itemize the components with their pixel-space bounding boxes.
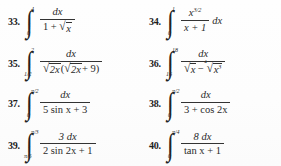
numerator-exponent: 3/2 <box>193 6 201 13</box>
numerator: dx <box>195 48 211 61</box>
integral-sign-36: 18 ∫ 16 <box>163 47 180 77</box>
numerator-text: dx <box>198 48 208 59</box>
fraction-38: dx 3 + cos 2x <box>181 89 231 116</box>
lower-limit: 0 <box>27 30 30 36</box>
lower-limit: 0 <box>168 112 171 118</box>
radical-icon: √ <box>59 20 65 35</box>
denominator-prefix: 1 + <box>43 21 57 32</box>
lower-limit: 0 <box>168 153 171 159</box>
problem-number: 40. <box>149 138 161 151</box>
lower-limit: 0 <box>168 30 171 36</box>
integral-sign-39: π/3 ∫ π/6 <box>22 129 39 159</box>
radical-icon: √ <box>64 62 70 77</box>
integral-sign-33: 4 ∫ 0 <box>22 6 39 36</box>
integral-sign-37: π/2 ∫ 0 <box>22 88 39 118</box>
radical-icon: √ <box>207 62 213 77</box>
problem-number: 35. <box>8 56 20 69</box>
denominator: 1 + √ x <box>40 20 75 35</box>
numerator-text: dx <box>201 89 211 100</box>
numerator-text: 8 dx <box>194 131 212 142</box>
numerator-text: dx <box>60 89 70 100</box>
problem-number: 33. <box>8 14 20 27</box>
square-root-outer: √ 2x <box>43 63 61 77</box>
fraction-39: 3 dx 2 sin 2x + 1 <box>40 131 96 158</box>
denominator: x + 1 <box>181 21 209 34</box>
problem-number: 37. <box>8 96 20 109</box>
denominator: 2 sin 2x + 1 <box>40 144 96 157</box>
radicand: x3 <box>213 63 222 76</box>
fraction-35: dx √ 2x ( √ 2x + 9) <box>40 48 102 76</box>
fourth-root: 4 √ x3 <box>205 63 222 77</box>
integral-sign-38: π/2 ∫ 0 <box>163 88 180 118</box>
problem-35: 35. 2 ∫ 1/2 dx √ 2x ( √ 2x + 9) <box>0 41 141 83</box>
integral-sign-35: 2 ∫ 1/2 <box>22 47 39 77</box>
lower-limit: 16 <box>166 71 172 77</box>
problem-34: 34. 1 ∫ 0 x3/2 x + 1 dx <box>141 0 281 41</box>
problem-number: 38. <box>149 96 161 109</box>
denominator-text: x + 1 <box>184 22 206 33</box>
problem-number: 36. <box>149 56 161 69</box>
fraction-33: dx 1 + √ x <box>40 6 75 34</box>
radicand: 2x <box>70 63 81 76</box>
numerator: x3/2 <box>186 7 205 20</box>
square-root: √ x <box>59 21 71 35</box>
radical-icon: √ <box>43 62 49 77</box>
radicand: 2x <box>49 63 60 76</box>
lower-limit: 1/2 <box>24 71 32 77</box>
problem-33: 33. 4 ∫ 0 dx 1 + √ x <box>0 0 141 41</box>
problem-number: 34. <box>149 14 161 27</box>
integral-sign-34: 1 ∫ 0 <box>163 6 180 36</box>
numerator-text: dx <box>66 48 76 59</box>
numerator: dx <box>57 89 73 102</box>
denominator: tan x + 1 <box>181 144 224 157</box>
problem-38: 38. π/2 ∫ 0 dx 3 + cos 2x <box>141 83 281 122</box>
radicand-exponent: 3 <box>218 63 221 70</box>
denominator: √ x − 4 √ x3 <box>181 62 225 77</box>
numerator: dx <box>49 6 65 19</box>
fraction-37: dx 5 sin x + 3 <box>40 89 90 116</box>
numerator-text: dx <box>52 6 62 17</box>
numerator: dx <box>198 89 214 102</box>
fraction-36: dx √ x − 4 √ x3 <box>181 48 225 76</box>
problem-40: 40. π/4 ∫ 0 8 dx tan x + 1 <box>141 122 281 166</box>
fraction-40: 8 dx tan x + 1 <box>181 131 224 158</box>
square-root: √ x <box>184 63 196 77</box>
radical-icon: √ <box>184 62 190 77</box>
denominator-tail: + 9) <box>82 63 99 74</box>
numerator: 3 dx <box>56 131 80 144</box>
radicand: x <box>66 22 72 35</box>
problem-36: 36. 18 ∫ 16 dx √ x − 4 √ x3 <box>141 41 281 83</box>
problem-37: 37. π/2 ∫ 0 dx 5 sin x + 3 <box>0 83 141 122</box>
denominator: √ 2x ( √ 2x + 9) <box>40 62 102 77</box>
square-root-inner: √ 2x <box>64 63 82 77</box>
integral-sign-40: π/4 ∫ 0 <box>163 129 180 159</box>
radicand: x <box>190 63 196 76</box>
numerator: dx <box>63 48 79 61</box>
fraction-34: x3/2 x + 1 <box>181 7 209 34</box>
problem-number: 39. <box>8 138 20 151</box>
lower-limit: 0 <box>27 112 30 118</box>
problem-39: 39. π/3 ∫ π/6 3 dx 2 sin 2x + 1 <box>0 122 141 166</box>
minus-operator: − <box>196 63 205 74</box>
denominator: 5 sin x + 3 <box>40 103 90 116</box>
exercise-page: 33. 4 ∫ 0 dx 1 + √ x 34. <box>0 0 281 166</box>
denominator: 3 + cos 2x <box>181 103 231 116</box>
numerator: 8 dx <box>191 131 215 144</box>
lower-limit: π/6 <box>24 153 32 159</box>
problem-grid: 33. 4 ∫ 0 dx 1 + √ x 34. <box>0 0 281 166</box>
numerator-text: 3 dx <box>59 131 77 142</box>
differential: dx <box>212 15 222 26</box>
